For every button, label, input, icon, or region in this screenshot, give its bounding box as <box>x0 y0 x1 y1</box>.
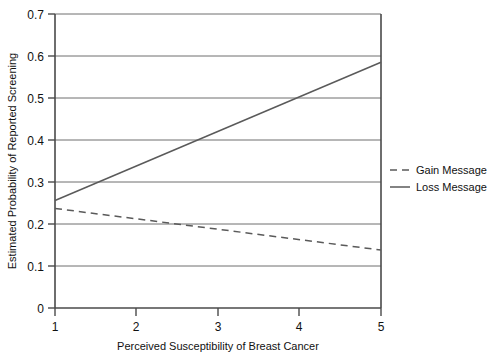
y-tick-label-0.1: 0.1 <box>27 260 44 274</box>
x-tick-label-5: 5 <box>378 320 385 334</box>
y-tick-label-0.5: 0.5 <box>27 92 44 106</box>
chart-figure: 0.7 0.6 0.5 0.4 0.3 0.2 0.1 0 1 2 3 4 5 … <box>0 0 492 358</box>
x-tick-labels: 1 2 3 4 5 <box>52 320 385 334</box>
y-tick-label-0.2: 0.2 <box>27 218 44 232</box>
x-tick-marks <box>55 308 381 316</box>
y-tick-labels: 0.7 0.6 0.5 0.4 0.3 0.2 0.1 0 <box>27 8 44 316</box>
y-tick-label-0.6: 0.6 <box>27 50 44 64</box>
y-tick-label-0.4: 0.4 <box>27 134 44 148</box>
y-tick-label-0.3: 0.3 <box>27 176 44 190</box>
y-tick-marks <box>48 14 55 308</box>
y-tick-label-0.7: 0.7 <box>27 8 44 22</box>
x-axis-title: Perceived Susceptibility of Breast Cance… <box>117 340 319 352</box>
x-tick-label-3: 3 <box>215 320 222 334</box>
x-tick-label-4: 4 <box>296 320 303 334</box>
legend-label-gain-message: Gain Message <box>416 164 487 176</box>
y-tick-label-0: 0 <box>37 302 44 316</box>
chart-legend: Gain Message Loss Message <box>390 164 487 193</box>
legend-label-loss-message: Loss Message <box>416 181 487 193</box>
line-chart-svg: 0.7 0.6 0.5 0.4 0.3 0.2 0.1 0 1 2 3 4 5 … <box>0 0 492 358</box>
x-tick-label-2: 2 <box>133 320 140 334</box>
y-axis-title: Estimated Probability of Reported Screen… <box>6 53 18 269</box>
plot-area-background <box>55 14 381 308</box>
x-tick-label-1: 1 <box>52 320 59 334</box>
